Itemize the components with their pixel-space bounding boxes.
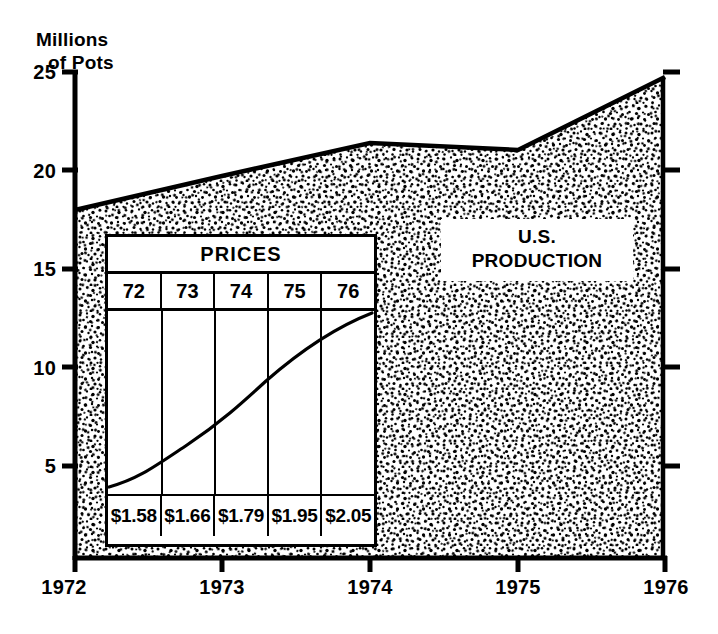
price-value-cell-74: $1.79 bbox=[215, 496, 269, 536]
price-year-cell-76: 76 bbox=[322, 274, 374, 308]
production-label-line1: U.S. bbox=[518, 226, 556, 247]
price-value-cell-72: $1.58 bbox=[108, 496, 162, 536]
price-year-cell-74: 74 bbox=[215, 274, 269, 308]
prices-year-header-row: 72 73 74 75 76 bbox=[108, 274, 374, 311]
production-label: U.S. PRODUCTION bbox=[441, 219, 633, 281]
price-value-cell-73: $1.66 bbox=[162, 496, 216, 536]
price-value-cell-76: $2.05 bbox=[322, 496, 374, 536]
prices-title: PRICES bbox=[200, 243, 282, 266]
chart-container: Millions of Pots 25 20 15 10 5 1972 1973… bbox=[0, 0, 718, 634]
y-axis-ticks-right bbox=[663, 72, 680, 466]
prices-title-row: PRICES bbox=[108, 237, 374, 274]
price-value-cell-75: $1.95 bbox=[269, 496, 323, 536]
price-year-cell-73: 73 bbox=[162, 274, 216, 308]
prices-inset-table: PRICES 72 73 74 75 76 $1.58 $1.66 $1.79 … bbox=[105, 234, 377, 547]
price-year-cell-75: 75 bbox=[269, 274, 323, 308]
prices-plot-body bbox=[108, 311, 374, 494]
production-label-line2: PRODUCTION bbox=[472, 250, 603, 271]
prices-value-row: $1.58 $1.66 $1.79 $1.95 $2.05 bbox=[108, 494, 374, 536]
prices-line-series bbox=[108, 311, 374, 494]
price-year-cell-72: 72 bbox=[108, 274, 162, 308]
